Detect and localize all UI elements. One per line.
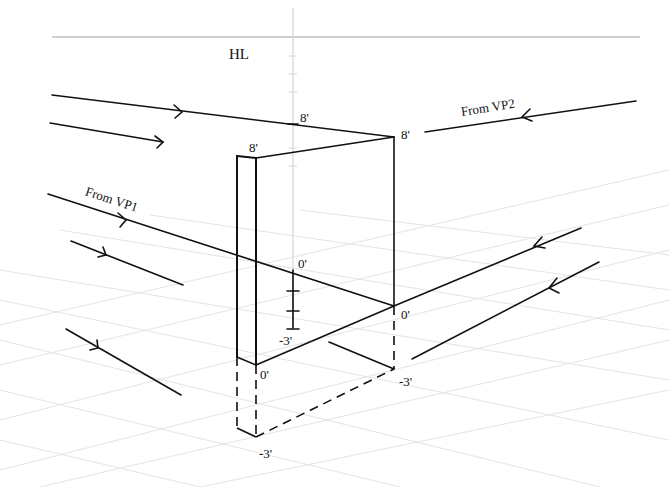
arrow-icon: [174, 105, 182, 118]
wall-base-edge: [256, 306, 394, 365]
wall-base-back: [237, 357, 256, 365]
wall-top-cap: [237, 156, 256, 158]
label-center-top: 8': [300, 111, 309, 124]
label-center-below: -3': [279, 334, 292, 347]
vp2-ray-short: [329, 342, 394, 369]
arrow-icon: [118, 213, 126, 227]
arrow-icon: [522, 109, 532, 121]
label-right-corner-ground: 0': [401, 308, 410, 321]
label-right-corner-below: -3': [399, 375, 412, 388]
label-right-corner-top: 8': [401, 128, 410, 141]
label-left-corner-below: -3': [259, 447, 272, 460]
vp2-ray-top: [425, 101, 636, 132]
vp1-ray-baseline: [48, 194, 394, 306]
label-left-corner-ground: 0': [260, 368, 269, 381]
horizon-label: HL: [229, 47, 249, 62]
label-left-corner-top: 8': [249, 141, 258, 154]
vp2-ray-3: [412, 262, 599, 359]
wall-top-edge: [256, 137, 394, 158]
perspective-diagram: [0, 0, 669, 487]
vp1-ray-5: [66, 329, 181, 395]
background-grid: [0, 170, 669, 487]
vp1-ray-top: [52, 95, 394, 137]
label-center-ground: 0': [298, 257, 307, 270]
vp1-ray-2: [50, 123, 163, 142]
vp2-ray-baseline: [394, 228, 581, 306]
